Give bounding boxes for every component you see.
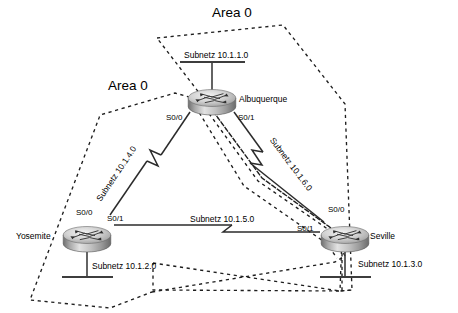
router-label-seville: Seville — [370, 232, 395, 241]
router-icon-yosemite[interactable] — [63, 227, 111, 253]
interface-label-seville-s0-1: S0/1 — [297, 225, 313, 233]
network-diagram: Area 0 Area 0 Albuquerque Yosemite Sevil… — [0, 0, 458, 313]
interface-label-yosemite-s0-0: S0/0 — [76, 209, 92, 217]
interface-label-seville-s0-0: S0/0 — [328, 206, 344, 214]
router-icon-albuquerque[interactable] — [188, 90, 236, 116]
area-label-right: Area 0 — [212, 6, 252, 20]
area-boundary-right — [153, 25, 352, 291]
interface-label-albuquerque-s0-0: S0/0 — [166, 114, 182, 122]
interface-label-yosemite-s0-1: S0/1 — [107, 215, 123, 223]
subnet-label-10-1-3-0: Subnetz 10.1.3.0 — [358, 260, 422, 269]
subnet-label-10-1-5-0: Subnetz 10.1.5.0 — [190, 215, 254, 224]
router-label-albuquerque: Albuquerque — [239, 95, 287, 104]
interface-label-albuquerque-s0-1: S0/1 — [238, 114, 254, 122]
subnet-label-10-1-1-0: Subnetz 10.1.1.0 — [184, 51, 248, 60]
router-label-yosemite: Yosemite — [16, 232, 51, 241]
subnet-label-10-1-2-0: Subnetz 10.1.2.0 — [92, 262, 156, 271]
router-icon-seville[interactable] — [321, 227, 369, 253]
area-label-left: Area 0 — [108, 79, 148, 93]
